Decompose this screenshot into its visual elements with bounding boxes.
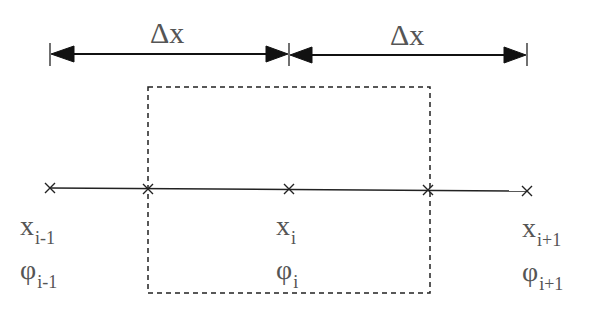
phi-subscript: i-1: [37, 272, 57, 292]
phi-symbol: φ: [20, 254, 36, 285]
x-subscript: i-1: [35, 228, 55, 248]
arrowhead-left-icon: [290, 47, 312, 63]
dimension-arrows: [50, 43, 527, 66]
arrowhead-right-icon: [266, 46, 288, 62]
x-symbol: x: [276, 210, 290, 241]
phi-symbol: φ: [276, 254, 292, 285]
x-symbol: x: [522, 212, 536, 243]
phi-subscript: i: [293, 272, 298, 292]
x-symbol: x: [20, 210, 34, 241]
x-label-i: xi: [276, 210, 296, 242]
x-subscript: i: [291, 228, 296, 248]
spacing-label-left: Δx: [150, 16, 184, 50]
arrowhead-left-icon: [51, 46, 74, 62]
arrowhead-right-icon: [504, 47, 526, 63]
phi-label-i: φi: [276, 254, 298, 286]
x-subscript: i+1: [537, 230, 561, 250]
x-label-i-minus-1: xi-1: [20, 210, 55, 242]
phi-symbol: φ: [522, 256, 538, 287]
node-markers: [45, 183, 532, 196]
phi-subscript: i+1: [539, 274, 563, 294]
spacing-label-right: Δx: [390, 18, 424, 52]
x-label-i-plus-1: xi+1: [522, 212, 561, 244]
phi-label-i-minus-1: φi-1: [20, 254, 57, 286]
phi-label-i-plus-1: φi+1: [522, 256, 563, 288]
